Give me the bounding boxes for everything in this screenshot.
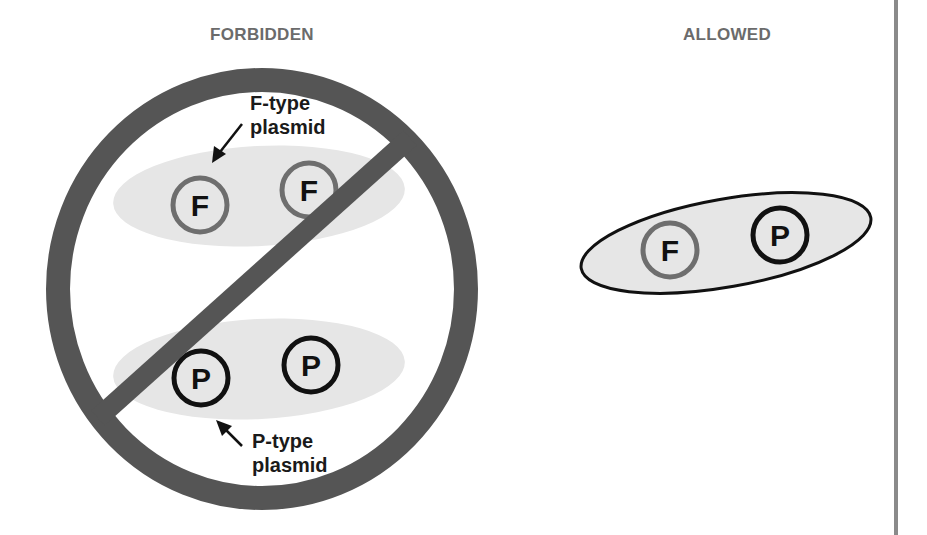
- allowed-panel: F P: [574, 174, 879, 312]
- arrow-icon: [216, 420, 242, 446]
- plasmid-incompatibility-diagram: FORBIDDEN ALLOWED F F P P: [0, 0, 927, 535]
- p-plasmid-letter: P: [191, 362, 211, 395]
- f-plasmid-letter: F: [661, 234, 679, 267]
- f-type-label-line2: plasmid: [250, 116, 326, 138]
- panel-divider: [894, 0, 898, 535]
- p-plasmid-letter: P: [770, 219, 790, 252]
- forbidden-heading: FORBIDDEN: [210, 25, 314, 44]
- forbidden-panel: F F P P F-type plasmid P-type plasmid: [58, 80, 466, 498]
- f-plasmid-letter: F: [300, 174, 318, 207]
- p-plasmid-letter: P: [301, 349, 321, 382]
- f-plasmid-cell: [111, 138, 408, 253]
- p-type-label-line2: plasmid: [252, 454, 328, 476]
- mixed-plasmid-cell: [574, 174, 879, 312]
- f-plasmid-letter: F: [191, 189, 209, 222]
- allowed-heading: ALLOWED: [683, 25, 771, 44]
- f-type-label-line1: F-type: [250, 92, 310, 114]
- p-type-label-line1: P-type: [252, 430, 313, 452]
